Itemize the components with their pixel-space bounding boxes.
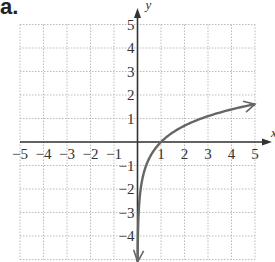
y-tick-label: −3 — [119, 205, 135, 221]
x-tick-label: −4 — [36, 146, 52, 162]
y-tick-label: 4 — [127, 40, 135, 56]
x-tick-label: 5 — [251, 146, 259, 162]
x-axis-label: x — [270, 125, 275, 140]
y-tick-label: −1 — [119, 158, 135, 174]
y-tick-label: −4 — [119, 228, 135, 244]
x-tick-label: 2 — [181, 146, 189, 162]
y-tick-label: 2 — [127, 87, 135, 103]
y-tick-label: 5 — [127, 17, 135, 33]
x-tick-label: −2 — [83, 146, 99, 162]
y-axis-arrow-icon — [134, 8, 141, 18]
y-tick-label: 1 — [127, 111, 135, 127]
curve-line — [138, 104, 255, 262]
x-tick-label: 4 — [228, 146, 236, 162]
x-tick-label: 1 — [157, 146, 165, 162]
log-function-chart: yx−5−4−3−2−11234554321−1−2−3−4 — [0, 0, 275, 262]
x-tick-label: −5 — [12, 146, 28, 162]
y-tick-label: −2 — [119, 181, 135, 197]
x-tick-label: 3 — [204, 146, 212, 162]
y-axis-label: y — [144, 0, 152, 12]
y-tick-label: 3 — [127, 64, 135, 80]
x-tick-label: −3 — [59, 146, 75, 162]
